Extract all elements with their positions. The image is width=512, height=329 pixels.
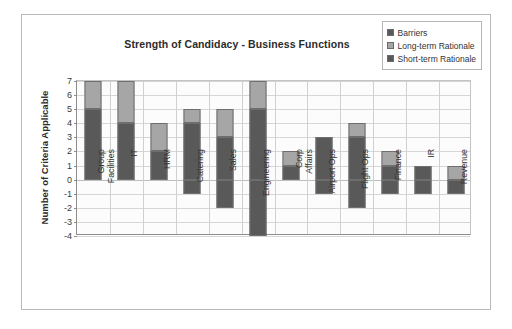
bar-segment-long-term[interactable] — [85, 81, 102, 109]
y-tick-label: -1 — [64, 189, 72, 199]
chart-legend: BarriersLong-term RationaleShort-term Ra… — [382, 21, 482, 70]
legend-item-label: Barriers — [398, 28, 428, 38]
x-tick-label: IR — [426, 149, 436, 239]
bar-segment-long-term[interactable] — [348, 123, 365, 137]
y-tick-label: -2 — [64, 203, 72, 213]
y-tick-label: 2 — [67, 146, 72, 156]
x-tick-label: Airport Ops — [327, 149, 337, 239]
y-tick-label: -3 — [64, 217, 72, 227]
y-tick-label: 5 — [67, 104, 72, 114]
x-tick-label: IT — [129, 149, 139, 239]
x-tick-label: HRM — [162, 149, 172, 239]
legend-item-label: Long-term Rationale — [398, 41, 475, 51]
legend-swatch-icon — [387, 42, 394, 49]
bar-segment-long-term[interactable] — [184, 109, 201, 123]
bar-segment-long-term[interactable] — [217, 109, 234, 137]
x-tick-label: Catering — [195, 149, 205, 239]
bar-segment-long-term[interactable] — [151, 123, 168, 151]
chart-container: Strength of Candidacy - Business Functio… — [21, 14, 491, 310]
x-tick-label: Flight Ops — [360, 149, 370, 239]
y-tick-label: 0 — [67, 175, 72, 185]
x-tick-label: Sales — [228, 149, 238, 239]
y-axis-title: Number of Criteria Applicable — [39, 80, 53, 235]
x-tick-label: Finance — [393, 149, 403, 239]
legend-swatch-icon — [387, 29, 394, 36]
y-tick-label: 7 — [67, 76, 72, 86]
y-tick-label: -4 — [64, 231, 72, 241]
x-tick-label: Corp Affairs — [294, 149, 314, 239]
y-tick-mark — [74, 236, 77, 237]
legend-item[interactable]: Short-term Rationale — [387, 52, 476, 65]
legend-item-label: Short-term Rationale — [398, 54, 476, 64]
y-tick-label: 1 — [67, 161, 72, 171]
bar-segment-long-term[interactable] — [118, 81, 135, 123]
legend-swatch-icon — [387, 55, 394, 62]
y-tick-label: 3 — [67, 132, 72, 142]
legend-item[interactable]: Barriers — [387, 26, 476, 39]
x-tick-label: Engineering — [261, 149, 271, 239]
bar-segment-long-term[interactable] — [250, 81, 267, 109]
x-tick-label: Group Facilities — [96, 149, 116, 239]
legend-item[interactable]: Long-term Rationale — [387, 39, 476, 52]
y-tick-label: 6 — [67, 90, 72, 100]
x-tick-label: Revenue — [459, 149, 469, 239]
y-tick-label: 4 — [67, 118, 72, 128]
